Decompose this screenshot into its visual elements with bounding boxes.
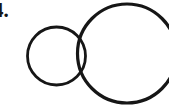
figure-container: 4. <box>0 0 169 105</box>
right-circle <box>78 4 170 103</box>
circles-drawing <box>0 0 169 105</box>
